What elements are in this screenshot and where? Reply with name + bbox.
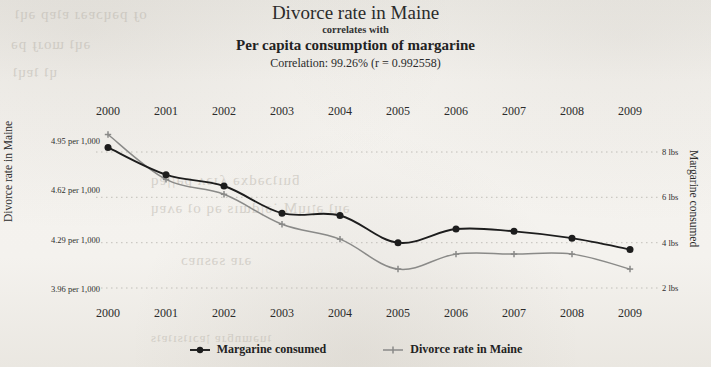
legend-dot-marker-icon bbox=[189, 345, 211, 355]
y-axis-right-tick-0: 8 lbs bbox=[662, 147, 678, 157]
y-axis-left-tick-2: 4.29 per 1,000 bbox=[18, 235, 100, 245]
y-axis-left-tick-3: 3.96 per 1,000 bbox=[18, 284, 100, 294]
y-axis-right-tick-3: 2 lbs bbox=[662, 283, 678, 293]
series-divorce-rate-in-maine bbox=[105, 131, 633, 272]
y-axis-right-tick-2: 4 lbs bbox=[662, 238, 678, 248]
legend-item-margarine[interactable]: Margarine consumed bbox=[189, 342, 327, 357]
y-axis-right-tick-1: 6 lbs bbox=[662, 192, 678, 202]
legend-label: Divorce rate in Maine bbox=[410, 342, 522, 357]
y-axis-left-tick-1: 4.62 per 1,000 bbox=[18, 185, 100, 195]
chart-plot-area bbox=[0, 0, 711, 367]
legend-item-divorce[interactable]: Divorce rate in Maine bbox=[382, 342, 522, 357]
legend-label: Margarine consumed bbox=[217, 342, 327, 357]
legend-cross-marker-icon bbox=[382, 345, 404, 355]
series-margarine-consumed bbox=[105, 144, 634, 253]
chart-legend: Margarine consumedDivorce rate in Maine bbox=[0, 342, 711, 357]
y-axis-left-tick-0: 4.95 per 1,000 bbox=[18, 136, 100, 146]
